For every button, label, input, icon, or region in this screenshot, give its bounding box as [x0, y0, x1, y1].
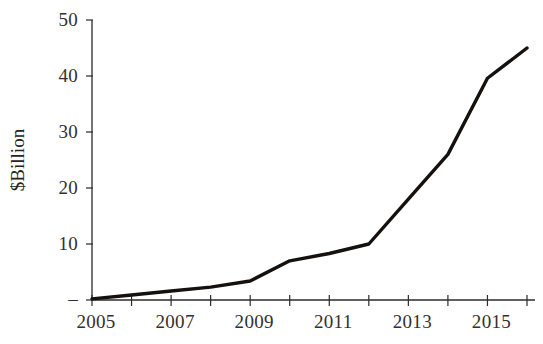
- y-axis-tick-label: 30: [58, 121, 78, 142]
- y-axis-tick-label: 10: [58, 233, 78, 254]
- y-axis-tick-label: 50: [58, 9, 78, 30]
- y-axis-tick-label: 20: [58, 177, 78, 198]
- y-axis-tick-labels: –1020304050: [58, 9, 78, 309]
- line-chart: $Billion –1020304050 2005200720092011201…: [0, 0, 543, 344]
- data-series-line: [92, 48, 527, 299]
- x-axis-tick-label: 2009: [235, 311, 274, 332]
- x-axis-tick-labels: 200520072009201120132015: [76, 311, 511, 332]
- x-axis-tick-label: 2005: [76, 311, 115, 332]
- y-axis-tick-label: –: [67, 288, 78, 309]
- chart-container: $Billion –1020304050 2005200720092011201…: [0, 0, 543, 344]
- x-axis-tick-label: 2013: [393, 311, 432, 332]
- y-axis-title: $Billion: [7, 128, 28, 191]
- x-axis-tick-label: 2015: [472, 311, 511, 332]
- x-axis-tick-label: 2007: [155, 311, 194, 332]
- y-axis-tick-label: 40: [58, 65, 78, 86]
- x-axis-tick-label: 2011: [314, 311, 353, 332]
